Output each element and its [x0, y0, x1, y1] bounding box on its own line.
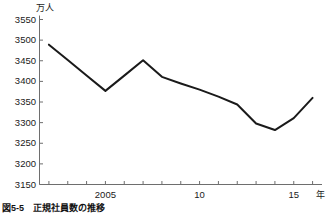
- x-axis-unit-label: 年: [316, 190, 325, 200]
- series-line: [49, 45, 313, 130]
- y-axis-tick-label: 3450: [15, 56, 36, 66]
- y-axis-tick-label: 3250: [15, 138, 36, 148]
- y-axis-tick-label: 3350: [15, 97, 36, 107]
- y-axis-tick-label: 3300: [15, 118, 36, 128]
- x-axis-tick-label: 15: [288, 190, 299, 200]
- x-axis-tick-label: 10: [194, 190, 205, 200]
- y-axis-tick-label: 3200: [15, 159, 36, 169]
- figure-container: 万人 315032003250330033503400345035003550 …: [0, 0, 330, 213]
- y-axis-tick-labels: 315032003250330033503400345035003550: [0, 0, 36, 213]
- y-axis-tick-label: 3500: [15, 35, 36, 45]
- chart-series-lines: [49, 45, 313, 130]
- line-chart-plot: [0, 0, 330, 213]
- figure-caption: 図5-5 正規社員数の推移: [2, 203, 330, 213]
- y-axis-tick-label: 3400: [15, 76, 36, 86]
- y-axis-unit-label: 万人: [36, 3, 54, 14]
- y-axis-tick-label: 3550: [15, 15, 36, 25]
- chart-axes: [40, 16, 323, 185]
- x-axis-tick-label: 2005: [95, 190, 116, 200]
- y-axis-tick-label: 3150: [15, 180, 36, 190]
